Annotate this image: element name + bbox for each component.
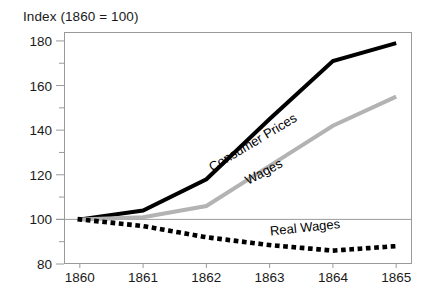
- y-axis-tick-label: 180: [12, 33, 52, 48]
- x-axis-tick-label: 1860: [50, 270, 110, 285]
- x-axis-tick-label: 1863: [240, 270, 300, 285]
- y-axis-tick-label: 100: [12, 212, 52, 227]
- x-axis-tick-label: 1861: [113, 270, 173, 285]
- x-axis-tick-label: 1864: [303, 270, 363, 285]
- chart-container: Index (1860 = 100) 80100120140160180 186…: [0, 0, 428, 306]
- x-axis-tick-label: 1865: [366, 270, 426, 285]
- y-axis-tick-label: 160: [12, 78, 52, 93]
- x-axis-tick-label: 1862: [176, 270, 236, 285]
- y-axis-tick-label: 120: [12, 167, 52, 182]
- y-axis-tick-label: 80: [12, 257, 52, 272]
- chart-plot-svg: [0, 0, 428, 306]
- y-axis-tick-label: 140: [12, 123, 52, 138]
